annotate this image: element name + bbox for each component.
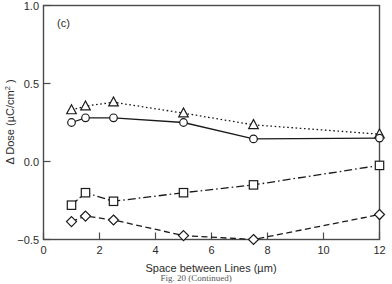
series-marker xyxy=(67,201,75,209)
series-marker xyxy=(109,197,117,205)
x-axis-ticks xyxy=(44,233,380,240)
series-marker xyxy=(375,161,383,169)
y-tick-label: 0.0 xyxy=(24,156,39,168)
series-marker xyxy=(67,217,77,227)
series-marker xyxy=(81,211,91,221)
series-marker xyxy=(249,181,257,189)
plot-frame xyxy=(44,6,380,240)
series-marker xyxy=(375,210,385,220)
series-marker xyxy=(109,97,119,106)
series-marker xyxy=(67,105,77,114)
series-marker xyxy=(250,135,258,143)
series-marker xyxy=(68,119,76,127)
series-line xyxy=(72,118,380,139)
series-marker xyxy=(82,114,90,122)
y-axis-tick-labels: 1.0 0.5 0.0 −0.5 xyxy=(17,0,39,246)
series-layer xyxy=(67,97,385,244)
series-line xyxy=(72,215,380,240)
series-marker xyxy=(180,119,188,127)
chart-series-circle-series xyxy=(68,114,384,143)
chart-canvas: 1.0 0.5 0.0 −0.5 0 2 4 6 8 10 12 (c) xyxy=(0,0,392,284)
series-marker xyxy=(249,235,259,245)
y-axis-title: Δ Dose (µC/cm2 ) xyxy=(3,79,16,164)
panel-label: (c) xyxy=(57,17,70,29)
x-tick-label: 10 xyxy=(317,244,329,256)
x-axis-tick-labels: 0 2 4 6 8 10 12 xyxy=(40,244,385,256)
figure-container: 1.0 0.5 0.0 −0.5 0 2 4 6 8 10 12 (c) xyxy=(0,0,392,284)
series-marker xyxy=(109,215,119,225)
y-tick-label: 1.0 xyxy=(24,0,39,12)
x-tick-label: 4 xyxy=(152,244,158,256)
series-marker xyxy=(110,114,118,122)
x-tick-label: 2 xyxy=(96,244,102,256)
series-marker xyxy=(179,189,187,197)
x-tick-label: 8 xyxy=(264,244,270,256)
y-tick-label: 0.5 xyxy=(24,78,39,90)
y-tick-label: −0.5 xyxy=(17,234,39,246)
x-tick-label: 6 xyxy=(208,244,214,256)
series-marker xyxy=(81,189,89,197)
series-marker xyxy=(376,134,384,142)
x-tick-label: 12 xyxy=(373,244,385,256)
figure-caption: Fig. 20 (Continued) xyxy=(160,273,231,283)
chart-series-square-series xyxy=(67,161,383,209)
y-axis-ticks xyxy=(44,6,51,240)
x-tick-label: 0 xyxy=(40,244,46,256)
